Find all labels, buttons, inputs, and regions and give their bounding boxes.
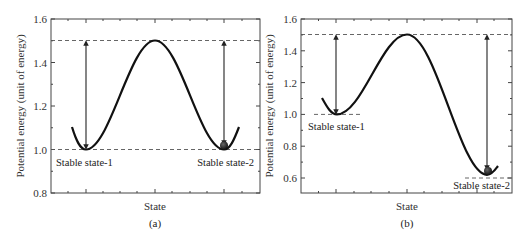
y-tick-label: 1.6 — [33, 13, 47, 25]
y-axis-title-a: Potential energy (unit of energy) — [14, 34, 27, 178]
panel-a: 1.6 1.4 1.2 1.0 0.8 Potential energy (un… — [14, 13, 260, 230]
caption-b: (b) — [401, 217, 414, 230]
x-ticks-b — [319, 19, 495, 193]
stable-state-1-label-b: Stable state-1 — [308, 121, 365, 132]
ball-icon — [220, 142, 228, 150]
x-axis-title-a: State — [144, 200, 166, 212]
plot-frame-b — [301, 19, 512, 193]
y-tick-label: 0.8 — [283, 140, 297, 152]
y-tick-label: 1.4 — [33, 57, 47, 69]
y-tick-label: 1.2 — [283, 77, 297, 89]
y-tick-label: 1.2 — [33, 100, 47, 112]
potential-curve-a — [72, 41, 239, 150]
y-tick-label: 1.0 — [33, 144, 47, 156]
stable-state-2-label-a: Stable state-2 — [197, 157, 254, 168]
y-tick-label: 1.4 — [283, 45, 297, 57]
ball-icon — [484, 167, 492, 175]
stable-state-2-label-b: Stable state-2 — [453, 180, 510, 191]
y-axis-title-b: Potential energy (unit of energy) — [263, 34, 276, 178]
y-tick-label: 1.0 — [283, 108, 297, 120]
panel-b: 1.6 1.4 1.2 1.0 0.8 0.6 Potential energy… — [263, 13, 512, 230]
y-tick-label: 0.8 — [33, 187, 47, 199]
y-tick-label: 0.6 — [283, 172, 297, 184]
x-axis-title-b: State — [396, 200, 418, 212]
stable-state-1-label-a: Stable state-1 — [56, 157, 113, 168]
y-ticks-b — [301, 19, 512, 178]
caption-a: (a) — [149, 217, 162, 230]
potential-curve-b — [322, 35, 498, 175]
figure: 1.6 1.4 1.2 1.0 0.8 Potential energy (un… — [0, 0, 529, 239]
y-tick-label: 1.6 — [283, 13, 297, 25]
